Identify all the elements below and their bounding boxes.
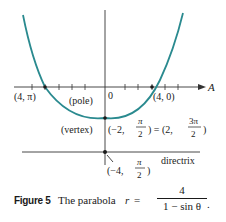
directrix-den: 2 bbox=[137, 170, 142, 180]
axis-arrow-icon bbox=[198, 84, 206, 90]
vertex-den: 2 bbox=[138, 129, 143, 139]
polar-plot: A (4, π) (4, 0) (pole) 0 (vertex) (−2, π… bbox=[0, 0, 226, 190]
caption-text: The parabola bbox=[58, 194, 116, 206]
caption-variable: r bbox=[125, 194, 129, 206]
directrix-point bbox=[103, 150, 107, 154]
zero-label: 0 bbox=[108, 90, 113, 101]
point-4-0 bbox=[150, 85, 154, 89]
vertex-coord-left: (−2, bbox=[108, 124, 124, 136]
caption-numerator: 4 bbox=[157, 184, 207, 197]
vertex-mid: ) = (2, bbox=[148, 124, 173, 136]
vertex-label: (vertex) bbox=[61, 124, 93, 136]
vertex-3pi: 3π bbox=[189, 116, 199, 126]
pointer-arrow-icon bbox=[107, 155, 113, 162]
caption-period: . bbox=[207, 198, 210, 210]
caption-equals: = bbox=[134, 194, 140, 206]
caption-fraction-bar bbox=[157, 198, 207, 199]
caption-denominator: 1 − sin θ bbox=[157, 200, 207, 213]
caption-fraction: 4 1 − sin θ bbox=[157, 184, 207, 213]
vertex-point bbox=[103, 116, 107, 120]
parabola-figure: A (4, π) (4, 0) (pole) 0 (vertex) (−2, π… bbox=[0, 0, 226, 222]
directrix-label: directrix bbox=[161, 155, 195, 166]
right-intercept-label: (4, 0) bbox=[153, 91, 175, 103]
caption-label: Figure 5 bbox=[14, 195, 51, 206]
directrix-point-coord: (−4, bbox=[107, 165, 123, 177]
vertex-close: ) bbox=[203, 124, 206, 136]
axis-label: A bbox=[207, 81, 215, 93]
directrix-close: ) bbox=[147, 165, 150, 177]
vertex-pi: π bbox=[138, 116, 143, 126]
point-4-pi bbox=[43, 85, 47, 89]
parabola-curve bbox=[23, 13, 183, 118]
left-intercept-label: (4, π) bbox=[14, 91, 36, 103]
figure-caption: Figure 5 The parabola r = 4 1 − sin θ . bbox=[14, 188, 226, 218]
directrix-pi: π bbox=[137, 157, 142, 167]
vertex-den-2: 2 bbox=[191, 129, 196, 139]
pole-label: (pole) bbox=[69, 95, 93, 107]
